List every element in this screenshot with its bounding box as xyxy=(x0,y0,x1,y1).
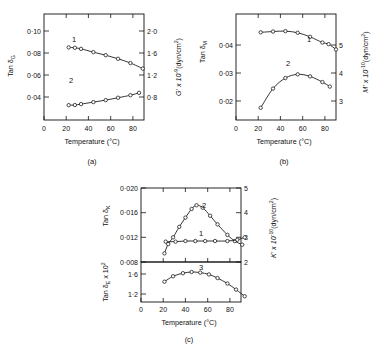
data-point xyxy=(171,275,174,278)
panel-b-plot: 0·04 0·03 0·02 Tan δM 5 4 3 M' x 10-10(d… xyxy=(190,0,379,180)
data-point xyxy=(79,47,82,50)
data-point xyxy=(137,91,140,94)
data-point xyxy=(236,238,239,241)
panel-b-ytick-right-2: 3 xyxy=(339,98,343,105)
panel-b-xtick-1: 20 xyxy=(254,125,262,132)
panel-b-xtick-2: 40 xyxy=(277,125,285,132)
panel-c-bottom-series xyxy=(163,270,247,298)
data-point xyxy=(328,85,331,88)
svg-text:Tan δM: Tan δM xyxy=(198,41,208,63)
data-point xyxy=(195,204,198,207)
data-point xyxy=(79,102,82,105)
data-point xyxy=(164,240,167,243)
data-point xyxy=(226,282,229,285)
data-point xyxy=(243,295,246,298)
panel-c-caption: (c) xyxy=(185,335,194,344)
data-point xyxy=(73,46,76,49)
data-point xyxy=(190,270,193,273)
panel-b-xtick-3: 60 xyxy=(299,125,307,132)
panel-a-top-ticks xyxy=(66,14,133,18)
data-point xyxy=(141,67,144,70)
panel-c-plot: 0·020 0·016 0·012 0·008 Tan δK 1·6 1·2 T… xyxy=(95,180,285,347)
panel-a-xlabel: Temperature (°C) xyxy=(64,137,119,146)
svg-text:Tan δG: Tan δG xyxy=(6,55,16,77)
data-point xyxy=(241,243,244,246)
panel-b-xtick-4: 80 xyxy=(321,125,329,132)
data-point xyxy=(67,46,70,49)
data-point xyxy=(129,94,132,97)
panel-a-ylabel-left-sub: G xyxy=(10,55,16,59)
panel-c-top-ticks xyxy=(163,188,230,192)
panel-a-ytick-1: 0·08 xyxy=(27,50,41,57)
panel-c-ytick-right-0: 5 xyxy=(244,185,248,192)
panel-b-ytick-1: 0·03 xyxy=(219,70,233,77)
data-point xyxy=(194,239,197,242)
panel-b-xlabel: Temperature (°C) xyxy=(256,137,311,146)
panel-b: 0·04 0·03 0·02 Tan δM 5 4 3 M' x 10-10(d… xyxy=(190,0,379,180)
panel-c-top-frame xyxy=(141,188,241,262)
data-point xyxy=(203,239,206,242)
data-point xyxy=(163,280,166,283)
panel-c-xtick-2: 40 xyxy=(182,306,190,313)
data-point xyxy=(116,96,119,99)
data-point xyxy=(308,75,311,78)
data-point xyxy=(163,252,166,255)
panel-c-ylabel-bottom: Tan δE x 102 xyxy=(100,262,111,302)
panel-a-series xyxy=(67,46,144,107)
curve-3 xyxy=(164,272,244,296)
panel-a-xtick-4: 80 xyxy=(129,125,137,132)
panel-c-ylabel-top-main: Tan δ xyxy=(101,209,110,227)
figure-container: 0·10 0·08 0·06 0·04 Tan δG 2·0 1·6 1·2 xyxy=(0,0,379,347)
panel-c-top-ytick-2: 0·012 xyxy=(120,234,138,241)
svg-text:G' x 10-9(dyn/cm2): G' x 10-9(dyn/cm2) xyxy=(173,38,183,96)
panel-c-ylabel-bot-mult: x 10 xyxy=(101,265,110,281)
panel-a-plot: 0·10 0·08 0·06 0·04 Tan δG 2·0 1·6 1·2 xyxy=(0,0,190,180)
panel-a-ylabel-right-unit-end: ) xyxy=(174,38,183,40)
panel-a-frame xyxy=(44,14,144,120)
curve-2 xyxy=(261,74,330,107)
panel-c-ylabel-right: K' x 10-10(dyn/cm2) xyxy=(268,198,278,258)
panel-c-top-ytick-1: 0·016 xyxy=(120,209,138,216)
panel-c-ytick-right-3: 2 xyxy=(244,259,248,266)
panel-c-curve-label-1: 1 xyxy=(199,229,203,238)
data-point xyxy=(174,240,177,243)
panel-b-x-axis: 0 20 40 60 80 xyxy=(234,116,329,132)
panel-c-ylabel-top-sub: K xyxy=(105,205,111,209)
data-point xyxy=(259,31,262,34)
svg-text:K' x 10-10(dyn/cm2): K' x 10-10(dyn/cm2) xyxy=(268,198,278,258)
panel-c-ylabel-right-main: K' x 10 xyxy=(269,236,278,258)
data-point xyxy=(116,57,119,60)
panel-a-ylabel-left: Tan δG xyxy=(6,55,16,77)
svg-text:M' x 10-10(dyn/cm2): M' x 10-10(dyn/cm2) xyxy=(360,31,370,92)
panel-c-right-axis: 5 4 3 2 xyxy=(236,185,248,266)
data-point xyxy=(213,239,216,242)
panel-c-bottom-left-axis: 1·6 1·2 xyxy=(128,271,146,298)
panel-c-bot-ytick-1: 1·2 xyxy=(128,291,138,298)
panel-b-ylabel-right-exp: -10 xyxy=(360,62,366,70)
panel-a-xtick-1: 20 xyxy=(62,125,70,132)
panel-b-left-axis: 0·04 0·03 0·02 xyxy=(219,42,241,105)
panel-b-ylabel-right-main: M' x 10 xyxy=(361,70,370,93)
data-point xyxy=(271,30,274,33)
panel-a-left-axis: 0·10 0·08 0·06 0·04 xyxy=(27,28,49,101)
panel-c-x-axis: 0 20 40 60 80 xyxy=(139,298,234,313)
data-point xyxy=(181,272,184,275)
panel-a-curve-label-2: 2 xyxy=(69,76,73,85)
panel-c: 0·020 0·016 0·012 0·008 Tan δK 1·6 1·2 T… xyxy=(95,180,285,347)
panel-c-ylabel-right-unit-end: ) xyxy=(269,198,278,200)
panel-c-curve-label-2: 2 xyxy=(202,201,206,210)
panel-b-ylabel-right-unit: (dyn/cm xyxy=(361,37,370,63)
data-point xyxy=(327,42,330,45)
data-point xyxy=(208,214,211,217)
panel-c-ylabel-top: Tan δK xyxy=(101,205,111,227)
panel-b-series xyxy=(259,29,338,109)
panel-a-ylabel-right-unit: (dyn/cm xyxy=(174,43,183,69)
curve-1 xyxy=(69,47,143,68)
panel-a-ylabel-right-main: G' x 10 xyxy=(174,73,183,96)
data-point xyxy=(92,50,95,53)
svg-text:Tan δE x 102: Tan δE x 102 xyxy=(100,262,111,302)
panel-b-ylabel-left-sub: M xyxy=(202,41,208,45)
panel-b-ytick-right-0: 5 xyxy=(339,42,343,49)
panel-a-ytick-0: 0·10 xyxy=(27,28,41,35)
panel-c-top-ytick-3: 0·008 xyxy=(120,259,138,266)
